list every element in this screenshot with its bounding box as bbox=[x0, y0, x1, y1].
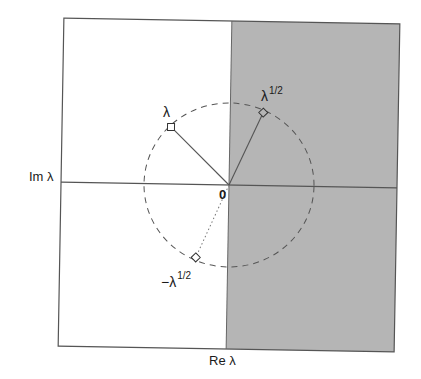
origin-label: 0 bbox=[219, 187, 226, 202]
re-lambda-label: Re λ bbox=[209, 353, 236, 368]
complex-plane-diagram: Im λ Re λ 0 λ λ1/2 −λ1/2 bbox=[0, 0, 421, 379]
lambda-square-marker bbox=[167, 123, 174, 130]
im-lambda-label: Im λ bbox=[29, 169, 54, 184]
lambda-point-label: λ bbox=[163, 104, 170, 120]
